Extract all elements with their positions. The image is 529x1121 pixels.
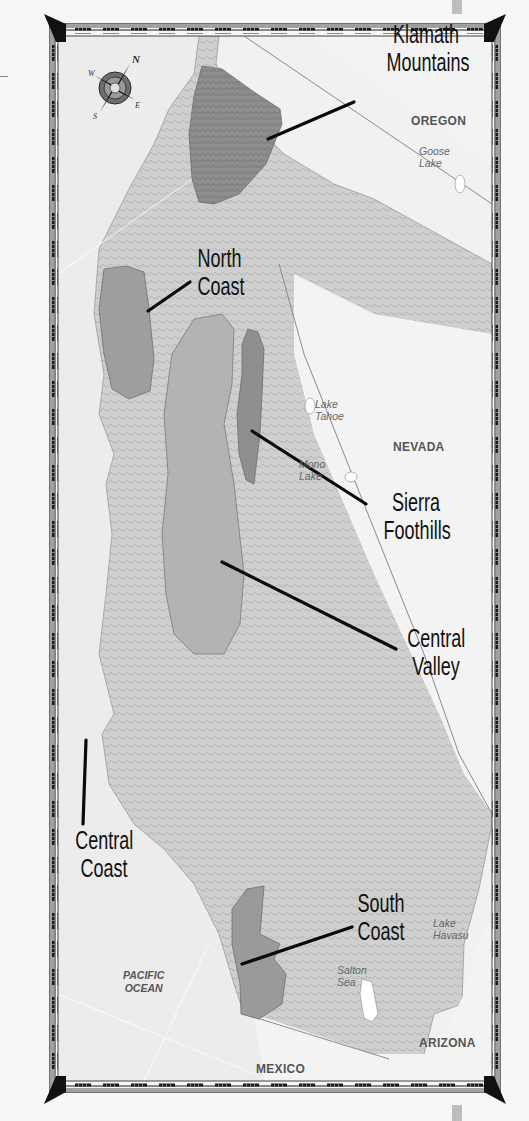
page-tab-top — [452, 0, 462, 14]
label-north-coast: North Coast — [197, 244, 240, 300]
label-north-coast-line1: North — [197, 244, 240, 272]
lake-tahoe-line2: Tahoe — [315, 410, 344, 422]
water-label-lake-havasu: Lake Havasu — [433, 917, 469, 941]
label-klamath-line2: Mountains — [386, 48, 465, 76]
frame-corner-top-right — [484, 14, 506, 42]
map-area: N W E S — [58, 36, 492, 1081]
lake-tahoe-line1: Lake — [315, 398, 344, 410]
label-central-coast: Central Coast — [75, 826, 133, 882]
label-sierra-line1: Sierra — [384, 488, 449, 516]
lake-havasu-line2: Havasu — [433, 929, 469, 941]
page-tab-bottom — [452, 1105, 462, 1121]
label-south-coast: South Coast — [356, 889, 406, 945]
state-label-oregon: OREGON — [411, 114, 466, 128]
label-central-coast-line2: Coast — [75, 854, 133, 882]
salton-sea-line1: Salton — [337, 964, 367, 976]
water-label-goose-lake: Goose Lake — [419, 145, 450, 169]
region-central-valley — [162, 314, 244, 654]
margin-mark — [0, 76, 8, 77]
label-south-coast-line2: Coast — [356, 917, 406, 945]
pacific-ocean-line1: PACIFIC — [123, 969, 164, 982]
svg-text:E: E — [134, 101, 140, 110]
water-label-pacific-ocean: PACIFIC OCEAN — [123, 969, 164, 995]
label-central-valley-line2: Valley — [407, 652, 465, 680]
goose-lake-line2: Lake — [419, 157, 450, 169]
water-label-mono-lake: Mono Lake — [299, 458, 325, 482]
svg-text:S: S — [93, 112, 97, 121]
lake-havasu-line1: Lake — [433, 917, 469, 929]
label-central-valley: Central Valley — [407, 624, 465, 680]
lake-tahoe-shape — [305, 398, 315, 414]
label-south-coast-line1: South — [356, 889, 406, 917]
state-label-nevada: NEVADA — [393, 440, 445, 454]
label-sierra-foothills: Sierra Foothills — [384, 488, 449, 544]
label-central-valley-line1: Central — [407, 624, 465, 652]
label-klamath-line1: Klamath — [386, 20, 465, 48]
svg-text:N: N — [131, 53, 141, 65]
label-klamath-mountains: Klamath Mountains — [386, 20, 465, 76]
water-label-salton-sea: Salton Sea — [337, 964, 367, 988]
state-label-mexico: MEXICO — [256, 1062, 305, 1076]
map-frame: N W E S Klamath — [44, 14, 506, 1104]
frame-corner-top-left — [44, 14, 66, 42]
goose-lake-line1: Goose — [419, 145, 450, 157]
mono-lake-shape — [345, 472, 357, 482]
salton-sea-line2: Sea — [337, 976, 367, 988]
mono-lake-line1: Mono — [299, 458, 325, 470]
label-north-coast-line2: Coast — [197, 272, 240, 300]
mono-lake-line2: Lake — [299, 470, 325, 482]
label-sierra-line2: Foothills — [384, 516, 449, 544]
frame-corner-bottom-right — [484, 1076, 506, 1104]
state-label-arizona: ARIZONA — [419, 1036, 476, 1050]
label-central-coast-line1: Central — [75, 826, 133, 854]
frame-corner-bottom-left — [44, 1076, 66, 1104]
goose-lake-shape — [455, 175, 465, 193]
water-label-lake-tahoe: Lake Tahoe — [315, 398, 344, 422]
pacific-ocean-line2: OCEAN — [123, 982, 164, 995]
